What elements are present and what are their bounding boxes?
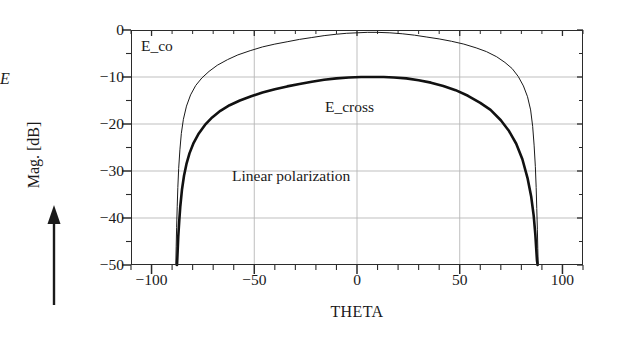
y-axis-title: Mag. [dB] xyxy=(25,93,43,217)
x-tick-label: −100 xyxy=(136,272,168,288)
annotation-linear-polarization: Linear polarization xyxy=(232,168,350,184)
y-tick-label: −20 xyxy=(100,116,124,132)
y-tick-label: 0 xyxy=(116,22,124,38)
x-axis-tick-labels: −100−50050100 xyxy=(0,272,630,296)
x-tick-label: 0 xyxy=(353,272,361,288)
chart-figure: 0−10−20−30−40−50 Mag. [dB] E −100−500501… xyxy=(0,0,630,349)
x-axis-title: THETA xyxy=(131,303,583,321)
y-tick-label: −10 xyxy=(100,69,124,85)
y-tick-label: −30 xyxy=(100,163,124,179)
x-tick-label: 100 xyxy=(551,272,574,288)
annotation-e-cross: E_cross xyxy=(325,99,374,115)
y-tick-label: −40 xyxy=(100,210,124,226)
field-arrow-label: E xyxy=(0,70,10,88)
annotation-e-co: E_co xyxy=(141,38,173,54)
x-tick-label: 50 xyxy=(452,272,468,288)
y-axis-tick-labels: 0−10−20−30−40−50 xyxy=(74,0,124,349)
plot-frame xyxy=(131,30,583,265)
x-tick-label: −50 xyxy=(242,272,266,288)
y-tick-label: −50 xyxy=(100,257,124,273)
